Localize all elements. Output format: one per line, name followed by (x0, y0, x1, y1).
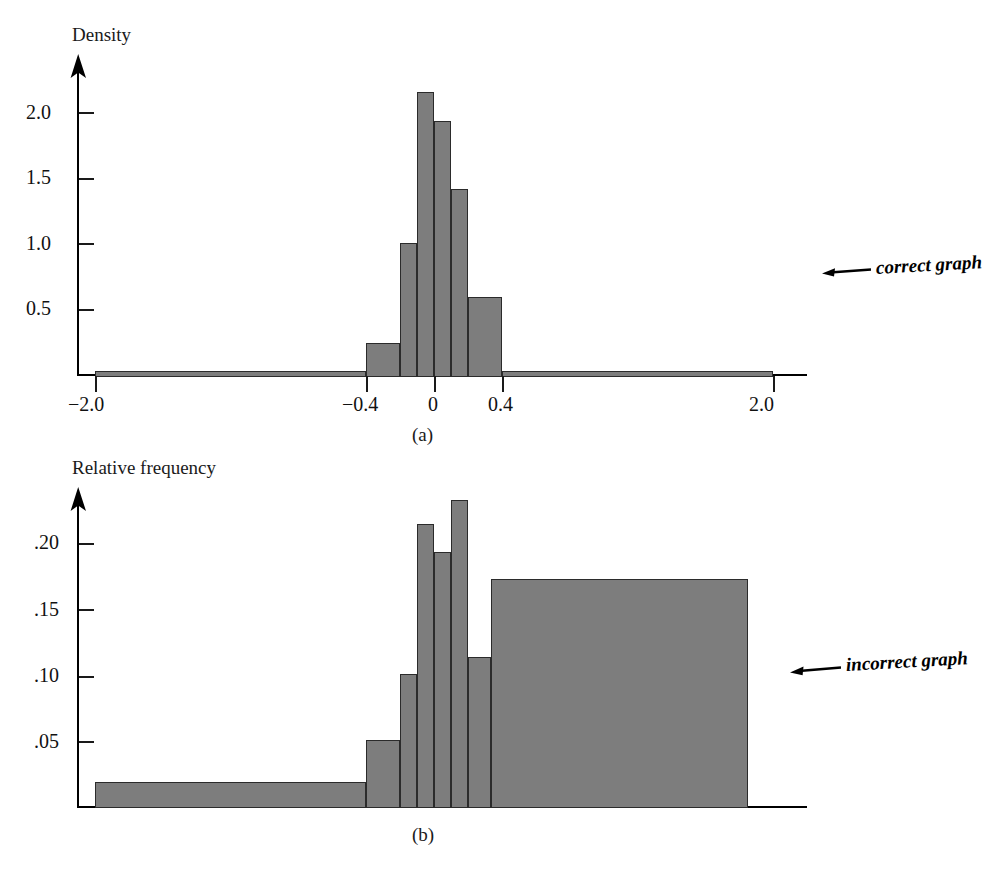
bar-a-1 (366, 343, 400, 377)
y-tick-b-1 (79, 676, 94, 678)
x-tick-a-1 (366, 376, 368, 392)
x-tick-a-2 (434, 376, 436, 392)
bar-b-4 (434, 552, 451, 808)
bar-a-6 (468, 297, 502, 377)
y-axis-arrowhead-b (70, 487, 88, 511)
y-tick-label-a-1: 1.0 (26, 232, 51, 255)
y-axis-line-b (77, 505, 79, 808)
bar-b-5 (451, 500, 468, 808)
x-tick-a-0 (95, 376, 97, 392)
y-tick-label-a-3: 2.0 (26, 101, 51, 124)
y-tick-a-0 (79, 309, 94, 311)
bar-a-3 (417, 92, 434, 377)
x-tick-label-a-0: −2.0 (68, 393, 104, 416)
bar-a-4 (434, 121, 451, 377)
y-tick-label-b-3: .20 (34, 531, 59, 554)
y-tick-b-3 (79, 543, 94, 545)
bar-b-7 (491, 579, 748, 808)
x-tick-label-a-2: 0 (428, 393, 438, 416)
y-tick-b-0 (79, 741, 94, 743)
bar-a-7 (502, 371, 773, 377)
subfigure-label-b: (b) (412, 824, 434, 846)
bar-a-5 (451, 189, 468, 377)
annotation-incorrect-graph: incorrect graph (845, 647, 968, 676)
subfigure-label-a: (a) (412, 424, 433, 446)
y-axis-line-a (77, 72, 79, 376)
y-axis-arrowhead-a (70, 54, 88, 78)
y-tick-a-2 (79, 178, 94, 180)
bar-a-0 (95, 371, 366, 377)
x-tick-label-a-1: −0.4 (342, 393, 378, 416)
bar-b-1 (366, 740, 400, 808)
y-axis-title-relative-frequency: Relative frequency (72, 457, 216, 479)
bar-b-6 (468, 657, 491, 808)
y-tick-a-3 (79, 112, 94, 114)
y-tick-label-b-1: .10 (34, 664, 59, 687)
y-tick-label-b-0: .05 (34, 730, 59, 753)
x-tick-a-3 (502, 376, 504, 392)
y-tick-a-1 (79, 243, 94, 245)
y-tick-b-2 (79, 609, 94, 611)
y-tick-label-a-2: 1.5 (26, 166, 51, 189)
bar-b-2 (400, 674, 417, 808)
bar-b-3 (417, 524, 434, 809)
left-arrow-icon-a (822, 262, 872, 280)
y-tick-label-b-2: .15 (34, 598, 59, 621)
annotation-correct-graph: correct graph (875, 251, 982, 279)
y-axis-title-density: Density (72, 24, 131, 46)
x-tick-label-a-4: 2.0 (749, 393, 774, 416)
x-tick-a-4 (773, 376, 775, 392)
bar-b-0 (95, 782, 366, 808)
y-tick-label-a-0: 0.5 (26, 297, 51, 320)
bar-a-2 (400, 243, 417, 377)
left-arrow-icon-b (790, 661, 842, 679)
x-tick-label-a-3: 0.4 (488, 393, 513, 416)
